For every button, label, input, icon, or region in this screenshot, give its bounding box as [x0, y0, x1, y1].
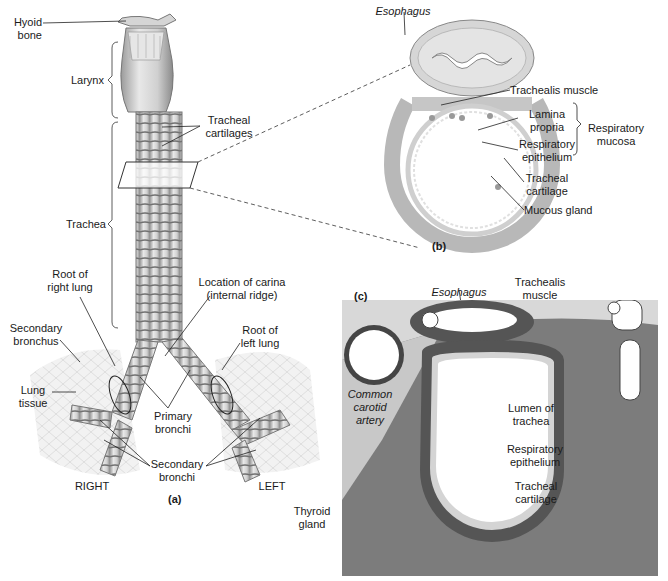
- label-c-lumen-of-trachea: Lumen of trachea: [504, 402, 558, 428]
- panel-c-tag: (c): [354, 290, 367, 302]
- label-right: RIGHT: [72, 480, 112, 493]
- label-c-thyroid-gland: Thyroid gland: [292, 505, 332, 531]
- panel-a-tag: (a): [168, 493, 181, 505]
- hyoid-bone: [118, 14, 176, 26]
- label-c-esophagus: Esophagus: [430, 286, 488, 299]
- label-b-tracheal-cartilage: Tracheal cartilage: [522, 172, 572, 198]
- trachea-tube: [136, 112, 182, 342]
- label-hyoid-bone: Hyoid bone: [4, 16, 42, 42]
- label-b-esophagus: Esophagus: [372, 5, 434, 18]
- label-c-respiratory-epithelium: Respiratory epithelium: [504, 443, 566, 469]
- label-b-respiratory-epithelium: Respiratory epithelium: [516, 138, 578, 164]
- label-secondary-bronchus: Secondary bronchus: [6, 322, 66, 348]
- histology-micrograph: [342, 300, 658, 576]
- label-tracheal-cartilages: Tracheal cartilages: [198, 114, 260, 140]
- label-b-mucous-gland: Mucous gland: [524, 204, 593, 217]
- larynx-brace: [108, 42, 118, 118]
- label-trachea: Trachea: [52, 218, 106, 231]
- label-c-common-carotid-artery: Common carotid artery: [346, 388, 394, 427]
- label-c-trachealis-muscle: Trachealis muscle: [512, 276, 568, 302]
- section-plane: [118, 162, 198, 188]
- label-b-lamina-propria: Lamina propria: [520, 108, 574, 134]
- panel-b-tag: (b): [432, 240, 446, 252]
- label-primary-bronchi: Primary bronchi: [148, 410, 198, 436]
- trachea-brace: [108, 122, 118, 328]
- label-left: LEFT: [254, 480, 290, 493]
- label-location-carina: Location of carina (internal ridge): [188, 276, 296, 302]
- label-larynx: Larynx: [60, 74, 104, 87]
- label-secondary-bronchi: Secondary bronchi: [146, 458, 208, 484]
- label-root-right-lung: Root of right lung: [40, 268, 100, 294]
- label-lung-tissue: Lung tissue: [14, 384, 52, 410]
- label-root-left-lung: Root of left lung: [232, 324, 288, 350]
- label-c-tracheal-cartilage: Tracheal cartilage: [510, 480, 562, 506]
- label-b-trachealis-muscle: Trachealis muscle: [510, 84, 598, 97]
- label-b-respiratory-mucosa: Respiratory mucosa: [584, 122, 648, 148]
